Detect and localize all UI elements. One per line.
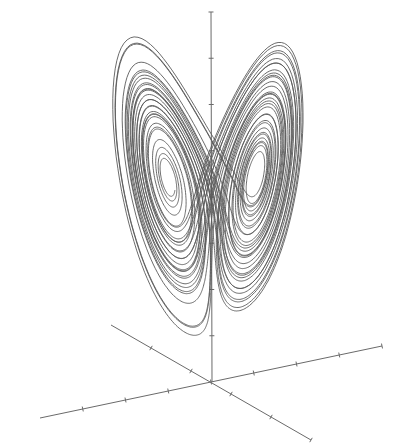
axis-a-tick	[82, 407, 83, 412]
axis-a-tick	[125, 398, 126, 403]
axis-a-tick	[296, 362, 297, 367]
lorenz-attractor-plot	[0, 0, 406, 447]
axis-a-tick	[168, 389, 169, 394]
axis-a-tick	[381, 344, 382, 349]
axis-a-tick	[253, 371, 254, 376]
lorenz-trajectory	[113, 37, 303, 335]
axis-a-tick	[339, 353, 340, 358]
axis-a-tick	[210, 380, 211, 385]
axes	[40, 12, 383, 442]
